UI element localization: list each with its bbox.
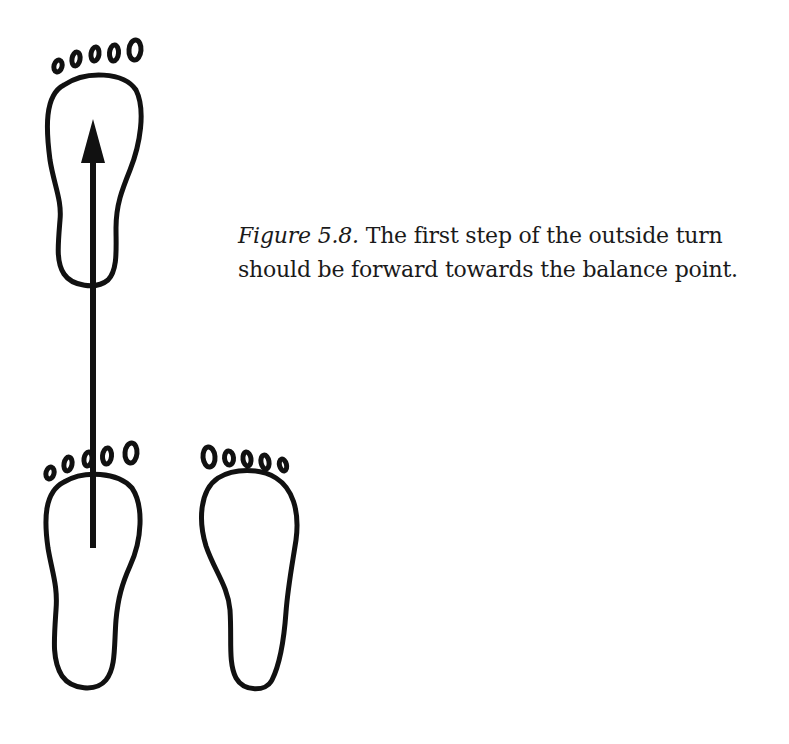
rear-right-toe-5: [278, 458, 288, 471]
rear-right-foot-outline: [202, 471, 297, 689]
front-toe-5: [128, 40, 142, 61]
rear-right-toe-4: [260, 454, 270, 469]
front-toe-1: [53, 59, 64, 73]
caption-line-2: should be forward towards the balance po…: [238, 257, 738, 282]
front-toe-3: [90, 47, 100, 62]
front-toe-4: [109, 45, 119, 62]
rear-left-toe-5: [124, 443, 138, 464]
rear-right-toe-3: [242, 452, 252, 467]
rear-right-toe-1: [202, 447, 216, 468]
rear-right-toe-2: [224, 451, 234, 466]
arrow-head: [81, 119, 105, 163]
front-toe-2: [71, 51, 81, 66]
figure-caption: Figure 5.8. The first step of the outsid…: [238, 219, 778, 287]
caption-line-1: The first step of the outside turn: [359, 223, 723, 248]
figure-label: Figure 5.8.: [238, 223, 359, 248]
rear-right-foot: [202, 447, 297, 689]
forward-arrow-icon: [81, 119, 105, 548]
footprint-diagram: [0, 0, 789, 744]
rear-left-toe-1: [45, 466, 56, 480]
rear-left-toe-2: [63, 456, 73, 471]
rear-left-toe-4: [102, 448, 112, 465]
arrow-shaft: [90, 150, 96, 548]
